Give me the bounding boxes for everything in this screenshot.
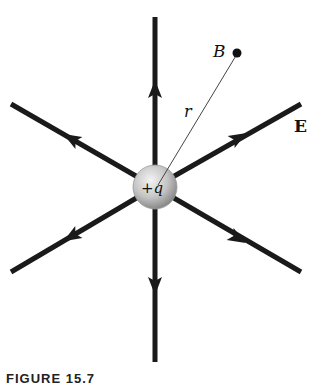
distance-label: r xyxy=(184,102,193,121)
charge-label: +q xyxy=(141,179,163,197)
field-line-upper-right xyxy=(155,104,301,187)
point-b-label: B xyxy=(212,41,226,61)
field-line-lower-left xyxy=(11,187,155,272)
field-line-lower-right xyxy=(155,187,301,272)
figure-caption: FIGURE 15.7 xyxy=(6,372,95,385)
field-line-upper-left xyxy=(11,104,155,187)
field-label: E xyxy=(294,116,307,136)
point-b-dot xyxy=(233,49,242,58)
